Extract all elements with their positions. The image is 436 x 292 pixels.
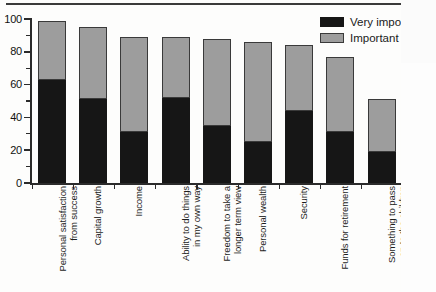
y-tick-minor bbox=[26, 100, 30, 101]
category-label-anchor: Security bbox=[285, 190, 313, 290]
category-label: Funds for retirement bbox=[340, 186, 351, 286]
y-tick-label: 80 bbox=[0, 46, 22, 57]
y-tick-minor bbox=[26, 68, 30, 69]
y-tick-major bbox=[24, 84, 30, 86]
bar-segment-very-important bbox=[162, 98, 190, 183]
x-tick bbox=[279, 184, 280, 189]
y-tick-label-wrap: 60 bbox=[0, 79, 22, 90]
category-label: Personal wealth bbox=[258, 186, 269, 286]
bar-segment-important bbox=[120, 37, 148, 132]
category-label-anchor: Personal satisfaction from success bbox=[38, 190, 66, 290]
y-tick-label-wrap: 20 bbox=[0, 145, 22, 156]
bar-segment-very-important bbox=[203, 126, 231, 183]
x-tick bbox=[361, 184, 362, 189]
bar-segment-very-important bbox=[326, 132, 354, 183]
bar-segment-important bbox=[203, 39, 231, 126]
bar-segment-important bbox=[38, 21, 66, 80]
category-label-anchor: Freedom to take a longer term view bbox=[203, 190, 231, 290]
bar-segment-important bbox=[368, 99, 396, 151]
y-tick-label: 60 bbox=[0, 79, 22, 90]
y-tick-label-wrap: 80 bbox=[0, 46, 22, 57]
x-tick bbox=[114, 184, 115, 189]
category-label-anchor: Personal wealth bbox=[244, 190, 272, 290]
y-tick-major bbox=[24, 149, 30, 151]
category-label: Ability to do things in my own way bbox=[181, 186, 202, 286]
y-tick-label-wrap: 100 bbox=[0, 14, 22, 25]
legend-label-important: Important bbox=[350, 31, 399, 45]
gray-swatch-icon bbox=[320, 33, 344, 43]
bar-segment-very-important bbox=[244, 142, 272, 183]
category-label-anchor: Capital growth bbox=[79, 190, 107, 290]
y-tick-major bbox=[24, 51, 30, 53]
y-tick-label-wrap: 0 bbox=[0, 178, 22, 189]
y-tick-label-wrap: 40 bbox=[0, 112, 22, 123]
y-tick-minor bbox=[26, 35, 30, 36]
category-label: Capital growth bbox=[93, 186, 104, 286]
legend-label-very-important: Very impo bbox=[350, 15, 401, 29]
bar-segment-very-important bbox=[120, 132, 148, 183]
y-tick-label: 0 bbox=[0, 178, 22, 189]
category-label-anchor: Ability to do things in my own way bbox=[162, 190, 190, 290]
bar-segment-very-important bbox=[79, 99, 107, 183]
x-tick bbox=[320, 184, 321, 189]
category-label: Personal satisfaction from success bbox=[58, 186, 79, 286]
y-tick-label: 20 bbox=[0, 145, 22, 156]
bar-segment-very-important bbox=[368, 152, 396, 183]
bar-segment-important bbox=[79, 27, 107, 99]
category-label: Income bbox=[134, 186, 145, 286]
y-tick-label: 100 bbox=[0, 14, 22, 25]
y-tick-major bbox=[24, 182, 30, 184]
y-tick-minor bbox=[26, 133, 30, 134]
scan-artifact-overlay bbox=[401, 0, 436, 63]
category-label-anchor: Funds for retirement bbox=[326, 190, 354, 290]
bar-segment-very-important bbox=[38, 80, 66, 183]
bar-segment-important bbox=[162, 37, 190, 98]
category-label: Security bbox=[299, 186, 310, 286]
bar-segment-important bbox=[326, 57, 354, 132]
category-label: Freedom to take a longer term view bbox=[222, 186, 243, 286]
chart-page: 020406080100 Personal satisfaction from … bbox=[0, 0, 436, 292]
bar-segment-important bbox=[285, 45, 313, 111]
black-swatch-icon bbox=[320, 17, 344, 27]
y-axis-line bbox=[30, 18, 32, 184]
bar-segment-very-important bbox=[285, 111, 313, 183]
y-tick-label: 40 bbox=[0, 112, 22, 123]
category-label-anchor: Income bbox=[120, 190, 148, 290]
bar-segment-important bbox=[244, 42, 272, 142]
y-tick-minor bbox=[26, 166, 30, 167]
scan-artifact-overlay-lower bbox=[401, 63, 436, 292]
x-tick bbox=[155, 184, 156, 189]
category-label-anchor: Something to pass on to the children bbox=[368, 190, 396, 290]
y-tick-major bbox=[24, 18, 30, 20]
y-tick-major bbox=[24, 117, 30, 119]
x-tick bbox=[32, 184, 33, 189]
